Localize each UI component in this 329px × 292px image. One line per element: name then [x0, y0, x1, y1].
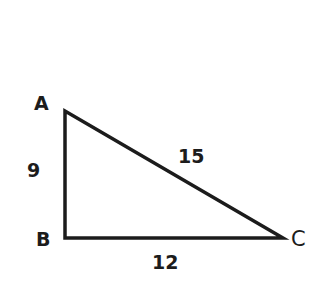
triangle-abc: [65, 111, 283, 238]
vertex-label-a: A: [34, 94, 49, 113]
side-label-ab: 9: [27, 161, 40, 180]
side-label-bc: 12: [152, 253, 178, 272]
vertex-label-c: C: [291, 229, 306, 250]
side-label-ac: 15: [178, 147, 204, 166]
vertex-label-b: B: [36, 230, 50, 249]
